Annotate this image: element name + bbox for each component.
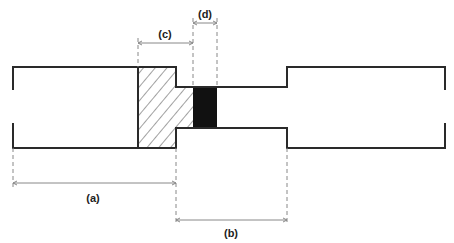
dimension-label-b: (b): [224, 227, 238, 239]
dimension-label-d: (d): [198, 8, 212, 20]
stepped-bar-diagram: [0, 0, 454, 243]
black-band: [193, 87, 217, 128]
dimension-label-c: (c): [158, 28, 171, 40]
dimension-label-a: (a): [86, 192, 99, 204]
bar-outline: [13, 67, 445, 148]
hatched-shoulder: [138, 67, 193, 148]
